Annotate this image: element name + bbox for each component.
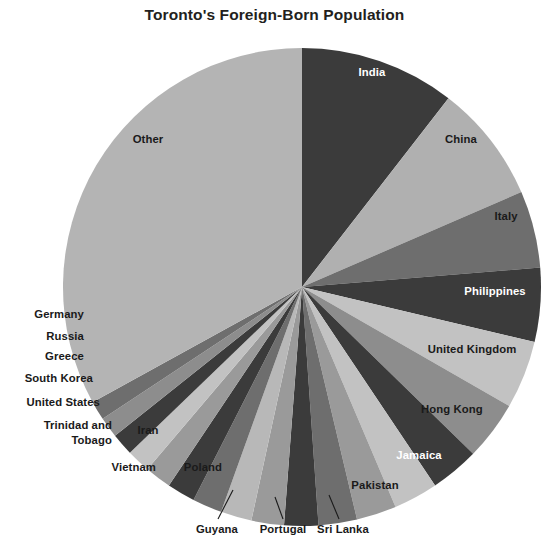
slice-label-tobago: Tobago (71, 434, 112, 446)
slice-label-italy: Italy (494, 210, 518, 222)
slice-label-germany: Germany (34, 308, 84, 320)
slice-label-russia: Russia (46, 330, 84, 342)
slice-label-united-states: United States (27, 396, 101, 408)
slice-label-china: China (445, 133, 477, 145)
slice-label-jamaica: Jamaica (396, 449, 442, 461)
slice-label-greece: Greece (45, 350, 84, 362)
slice-label-portugal: Portugal (260, 523, 307, 535)
slice-label-philippines: Philippines (464, 285, 525, 297)
slice-label-poland: Poland (184, 461, 222, 473)
slice-label-vietnam: Vietnam (112, 461, 156, 473)
slice-label-pakistan: Pakistan (351, 479, 398, 491)
slice-label-india: India (359, 66, 386, 78)
slice-label-other: Other (133, 133, 164, 145)
pie-chart-figure: Toronto's Foreign-Born Population IndiaC… (0, 0, 549, 553)
slice-label-south-korea: South Korea (25, 372, 94, 384)
slice-label-united-kingdom: United Kingdom (428, 343, 517, 355)
slice-label-sri-lanka: Sri Lanka (317, 523, 369, 535)
pie-chart-svg: IndiaChinaItalyPhilippinesUnited Kingdom… (0, 0, 549, 553)
slice-label-iran: Iran (137, 424, 158, 436)
slice-label-guyana: Guyana (196, 523, 239, 535)
slice-label-hong-kong: Hong Kong (421, 403, 483, 415)
slice-label-trinidad-and: Trinidad and (44, 419, 112, 431)
